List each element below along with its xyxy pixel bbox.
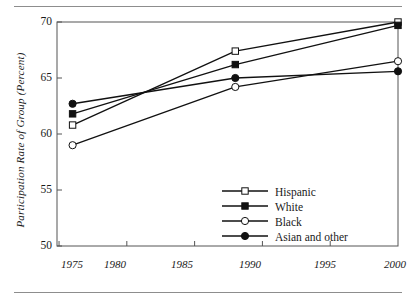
series-lines bbox=[69, 19, 402, 149]
chart-figure: Participation Rate of Group (Percent) 70… bbox=[0, 0, 416, 303]
legend-markers bbox=[222, 188, 268, 240]
axis-frame bbox=[57, 22, 398, 246]
plot-area bbox=[0, 0, 416, 303]
axis-ticks bbox=[57, 22, 330, 246]
